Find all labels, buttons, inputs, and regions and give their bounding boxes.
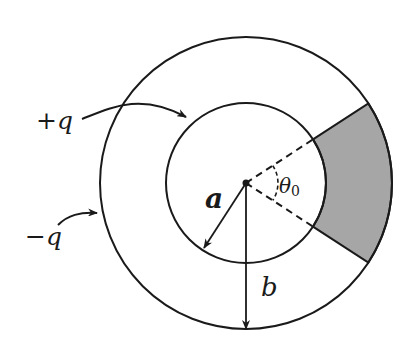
minus-q-pointer-arrow: [58, 213, 97, 225]
shell-diagram: +q −q a b θ0: [0, 0, 414, 357]
plus-q-label: +q: [36, 106, 73, 135]
theta-subscript: 0: [291, 183, 300, 199]
theta-symbol: θ: [279, 174, 291, 198]
plus-q-pointer-arrow: [82, 104, 186, 119]
theta-arc: [273, 166, 278, 201]
radius-b-label: b: [261, 272, 278, 302]
theta-label: θ0: [279, 174, 300, 199]
minus-q-label: −q: [25, 222, 62, 251]
radius-a-label: a: [205, 182, 223, 215]
